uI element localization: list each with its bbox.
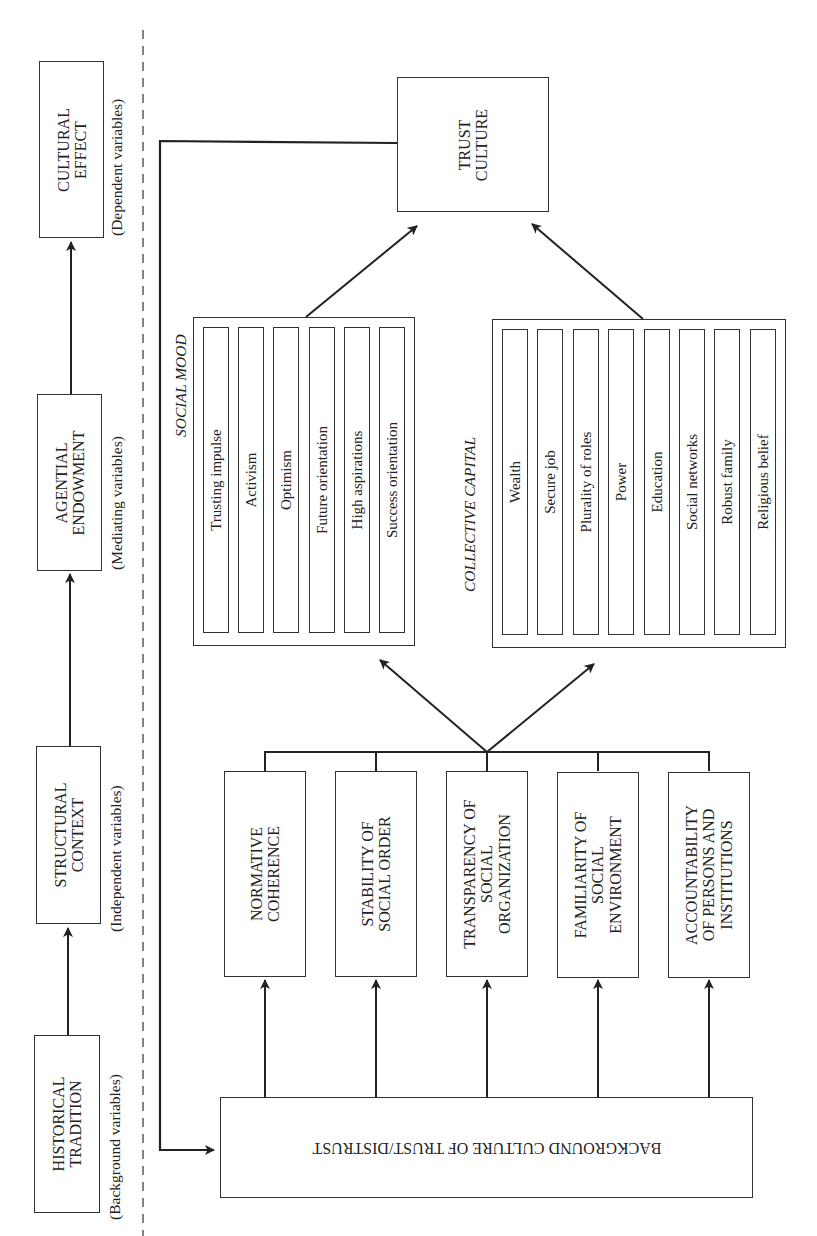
collective-capital-item: Religious belief [750, 329, 776, 635]
social-mood-box: Trusting impulse Activism Optimism Futur… [193, 317, 415, 646]
arrow-to-social-mood [380, 660, 487, 752]
arrow-collective-to-trust [532, 224, 643, 319]
collective-capital-item: Social networks [679, 329, 705, 635]
background-culture-label: BACKGROUND CULTURE OF TRUST/DISTRUST [312, 1139, 661, 1157]
factor-transparency-of-social-organization: TRANSPARENCY OF SOCIAL ORGANIZATION [446, 771, 528, 977]
arrow-social-mood-to-trust [306, 226, 417, 317]
factor-accountability-of-persons-and-institutions: ACCOUNTABILITY OF PERSONS AND INSTITUTIO… [668, 772, 750, 978]
mediating-variables-caption: (Mediating variables) [108, 436, 126, 570]
factor-familiarity-of-social-environment: FAMILIARITY OF SOCIAL ENVIRONMENT [557, 772, 639, 978]
trust-culture-box: TRUST CULTURE [397, 77, 549, 212]
historical-tradition-box: HISTORICAL TRADITION [34, 1035, 100, 1213]
background-variables-caption: (Background variables) [106, 1074, 124, 1220]
collective-capital-item: Power [608, 329, 634, 635]
factor-stability-of-social-order: STABILITY OF SOCIAL ORDER [335, 771, 417, 977]
agential-endowment-box: AGENTIAL ENDOWMENT [37, 394, 102, 571]
social-mood-item: Trusting impulse [203, 327, 229, 633]
agential-endowment-label: AGENTIAL ENDOWMENT [52, 430, 87, 535]
social-mood-item: Success orientation [379, 327, 405, 633]
collective-capital-item: Secure job [537, 329, 563, 635]
structural-context-box: STRUCTURAL CONTEXT [36, 746, 101, 924]
dependent-variables-caption: (Dependent variables) [108, 99, 126, 236]
social-mood-item: Future orientation [309, 327, 335, 633]
social-mood-title: SOCIAL MOOD [172, 334, 190, 437]
collective-capital-item: Wealth [502, 329, 528, 635]
collective-capital-item: Education [644, 329, 670, 635]
cultural-effect-label: CULTURAL EFFECT [54, 108, 89, 192]
social-mood-item: Activism [238, 327, 264, 633]
structural-context-label: STRUCTURAL CONTEXT [51, 783, 86, 888]
trust-culture-label: TRUST CULTURE [456, 108, 491, 180]
independent-variables-caption: (Independent variables) [107, 785, 125, 932]
social-mood-item: High aspirations [344, 327, 370, 633]
factor-normative-coherence: NORMATIVE COHERENCE [224, 771, 306, 977]
cultural-effect-box: CULTURAL EFFECT [39, 61, 104, 238]
collective-capital-item: Robust family [714, 329, 740, 635]
background-culture-box: BACKGROUND CULTURE OF TRUST/DISTRUST [220, 1097, 753, 1198]
collective-capital-box: Wealth Secure job Plurality of roles Pow… [492, 319, 786, 648]
arrow-to-collective-capital [487, 664, 594, 752]
collective-capital-title: COLLECTIVE CAPITAL [461, 437, 479, 592]
historical-tradition-label: HISTORICAL TRADITION [50, 1077, 85, 1172]
social-mood-item: Optimism [273, 327, 299, 633]
collective-capital-item: Plurality of roles [573, 329, 599, 635]
